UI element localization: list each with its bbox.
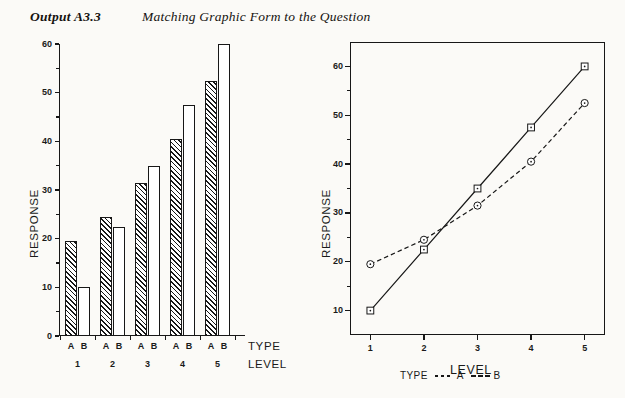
bar-chart: 0102030405060 ABABABABAB 12345 RESPONSE … (0, 30, 310, 398)
output-number-label: Output A3.3 (30, 9, 101, 25)
bar-level-label-4: 4 (165, 359, 200, 369)
line-y-minor-tick-35 (347, 188, 350, 189)
legend-symbol-B-icon (471, 370, 491, 380)
bar-y-tick-label-0: 0 (34, 331, 52, 341)
bar-chart-level-axis-title: LEVEL (248, 358, 287, 370)
line-marker-B-level-1 (367, 307, 374, 314)
line-y-tick-label-60: 60 (324, 61, 343, 71)
bar-level-5-type-A (205, 81, 217, 337)
line-marker-A-level-1 (367, 261, 374, 268)
figure-header: Output A3.3 Matching Graphic Form to the… (0, 6, 625, 32)
bar-type-label-2-B: B (110, 341, 128, 351)
bar-x-tick-5 (235, 336, 236, 340)
bar-level-1-type-B (78, 287, 90, 336)
bar-x-tick-0 (60, 336, 61, 340)
line-y-tick-label-40: 40 (324, 159, 343, 169)
line-y-tick-40 (345, 163, 350, 164)
line-y-minor-tick-55 (347, 90, 350, 91)
legend-title: TYPE (400, 370, 428, 381)
line-x-tick-5 (584, 335, 585, 340)
legend-label-A: A (457, 370, 464, 381)
line-y-tick-label-10: 10 (324, 305, 343, 315)
line-y-tick-20 (345, 261, 350, 262)
line-x-tick-4 (530, 335, 531, 340)
bar-level-label-2: 2 (95, 359, 130, 369)
bar-y-tick-20 (55, 238, 60, 239)
bar-y-minor-tick-25 (56, 214, 59, 215)
line-chart-legend: TYPE AB (400, 367, 508, 383)
line-x-tick-label-5: 5 (573, 343, 597, 353)
line-x-tick-label-3: 3 (466, 343, 490, 353)
bar-y-tick-label-10: 10 (34, 282, 52, 292)
bar-type-label-3-B: B (145, 341, 163, 351)
bar-y-tick-label-40: 40 (34, 136, 52, 146)
bar-y-tick-10 (55, 287, 60, 288)
line-y-minor-tick-25 (347, 237, 350, 238)
page-canvas: Output A3.3 Matching Graphic Form to the… (0, 0, 625, 398)
line-marker-B-level-2 (421, 246, 428, 253)
bar-x-tick-4 (200, 336, 201, 340)
line-marker-B-level-3 (474, 185, 481, 192)
bar-y-tick-50 (55, 92, 60, 93)
bar-level-3-type-B (148, 166, 160, 336)
bar-y-minor-tick-55 (56, 68, 59, 69)
bar-chart-plot-area (60, 44, 235, 336)
bar-level-2-type-A (100, 217, 112, 336)
line-x-tick-3 (477, 335, 478, 340)
bar-level-2-type-B (113, 227, 125, 337)
line-marker-A-level-2 (420, 236, 427, 243)
line-chart-plot-area (350, 42, 605, 335)
bar-y-minor-tick-15 (56, 262, 59, 263)
bar-y-tick-0 (55, 335, 60, 336)
line-marker-A-level-5 (581, 99, 588, 106)
bar-type-label-1-B: B (75, 341, 93, 351)
line-x-tick-label-4: 4 (519, 343, 543, 353)
line-marker-A-level-3 (474, 202, 481, 209)
line-chart-y-axis-title: RESPONSE (320, 189, 332, 258)
bar-y-minor-tick-35 (56, 165, 59, 166)
bar-level-1-type-A (65, 241, 77, 336)
bar-y-tick-label-50: 50 (34, 87, 52, 97)
bar-level-label-1: 1 (60, 359, 95, 369)
bar-y-tick-label-60: 60 (34, 39, 52, 49)
legend-label-B: B (493, 370, 500, 381)
line-marker-B-level-4 (528, 124, 535, 131)
line-x-tick-1 (370, 335, 371, 340)
bar-y-minor-tick-5 (56, 311, 59, 312)
bar-type-label-5-B: B (215, 341, 233, 351)
bar-level-3-type-A (135, 183, 147, 336)
line-y-tick-60 (345, 66, 350, 67)
bar-y-minor-tick-45 (56, 116, 59, 117)
line-x-tick-label-1: 1 (358, 343, 382, 353)
figure-title: Matching Graphic Form to the Question (142, 9, 371, 25)
bar-level-label-3: 3 (130, 359, 165, 369)
line-x-tick-2 (423, 335, 424, 340)
legend-entry-B: B (471, 370, 500, 381)
bar-x-tick-2 (130, 336, 131, 340)
bar-y-tick-60 (55, 43, 60, 44)
line-series-A-path (370, 103, 584, 264)
line-y-tick-10 (345, 310, 350, 311)
bar-y-tick-40 (55, 141, 60, 142)
legend-entry-A: A (435, 370, 464, 381)
line-y-tick-label-50: 50 (324, 110, 343, 120)
bar-chart-type-axis-title: TYPE (248, 340, 280, 352)
line-x-tick-label-2: 2 (412, 343, 436, 353)
line-y-tick-30 (345, 212, 350, 213)
line-marker-A-level-4 (527, 158, 534, 165)
bar-level-5-type-B (218, 44, 230, 336)
line-y-tick-50 (345, 115, 350, 116)
bar-y-tick-30 (55, 189, 60, 190)
line-y-minor-tick-15 (347, 286, 350, 287)
bar-level-4-type-B (183, 105, 195, 336)
bar-chart-y-axis-title: RESPONSE (28, 189, 40, 258)
bar-type-label-4-B: B (180, 341, 198, 351)
bar-x-tick-3 (165, 336, 166, 340)
line-chart: 102030405060 12345 RESPONSE LEVEL TYPE A… (312, 30, 625, 398)
bar-level-label-5: 5 (200, 359, 235, 369)
bar-level-4-type-A (170, 139, 182, 336)
bar-x-tick-1 (95, 336, 96, 340)
legend-symbol-A-icon (435, 370, 455, 380)
line-y-minor-tick-45 (347, 139, 350, 140)
line-marker-B-level-5 (581, 63, 588, 70)
